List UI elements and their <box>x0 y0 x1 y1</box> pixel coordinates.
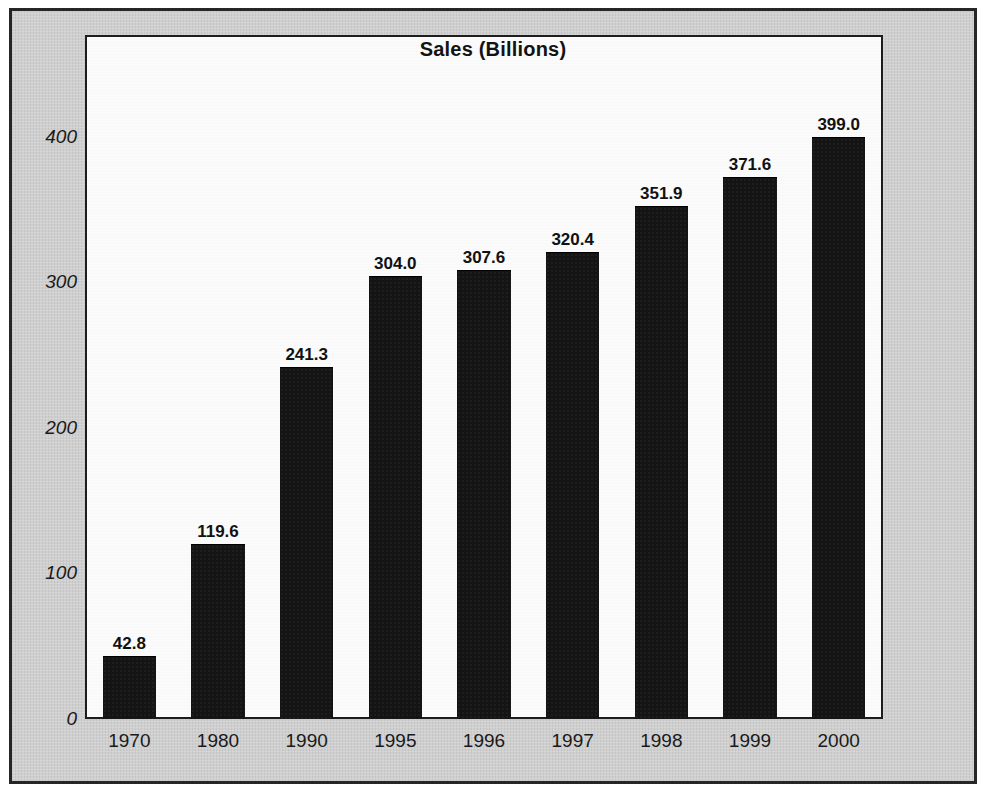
y-axis-tick-label: 400 <box>7 127 77 146</box>
bar <box>546 252 599 719</box>
bar <box>635 206 688 719</box>
x-axis-tick-label: 1970 <box>85 731 174 750</box>
x-axis-tick-label: 1980 <box>174 731 263 750</box>
bar <box>369 276 422 719</box>
bar-value-label: 241.3 <box>266 346 347 363</box>
bar <box>457 270 510 719</box>
y-axis-tick-label: 0 <box>7 709 77 728</box>
bar-slot: 241.3 <box>280 35 333 719</box>
x-axis-tick-label: 1990 <box>262 731 351 750</box>
x-axis-tick-label: 1996 <box>440 731 529 750</box>
chart-title: Sales (Billions) <box>0 38 986 61</box>
bar-slot: 42.8 <box>103 35 156 719</box>
bar-series: 42.8119.6241.3304.0307.6320.4351.9371.63… <box>85 35 883 719</box>
bar-value-label: 304.0 <box>355 255 436 272</box>
bar <box>191 544 244 719</box>
bar-value-label: 399.0 <box>798 116 879 133</box>
x-axis-tick-label: 1998 <box>617 731 706 750</box>
x-axis: 197019801990199519961997199819992000 <box>85 731 883 761</box>
x-axis-tick-label: 2000 <box>794 731 883 750</box>
bar-slot: 371.6 <box>723 35 776 719</box>
bar-slot: 399.0 <box>812 35 865 719</box>
x-axis-tick-label: 1995 <box>351 731 440 750</box>
chart-page: Sales (Billions) 4003002001000 42.8119.6… <box>0 0 986 792</box>
bar-value-label: 42.8 <box>89 635 170 652</box>
bar-value-label: 320.4 <box>532 231 613 248</box>
bar-slot: 119.6 <box>191 35 244 719</box>
y-axis-tick-label: 100 <box>7 563 77 582</box>
bar-value-label: 351.9 <box>621 185 702 202</box>
bar-value-label: 371.6 <box>709 156 790 173</box>
bar-slot: 304.0 <box>369 35 422 719</box>
bar-value-label: 119.6 <box>177 523 258 540</box>
bar-slot: 351.9 <box>635 35 688 719</box>
x-axis-tick-label: 1999 <box>706 731 795 750</box>
bar-slot: 320.4 <box>546 35 599 719</box>
bar <box>280 367 333 719</box>
bar <box>723 177 776 719</box>
bar-slot: 307.6 <box>457 35 510 719</box>
y-axis-tick-label: 200 <box>7 418 77 437</box>
bar <box>812 137 865 719</box>
x-axis-tick-label: 1997 <box>528 731 617 750</box>
y-axis-tick-label: 300 <box>7 272 77 291</box>
bar-value-label: 307.6 <box>443 249 524 266</box>
bar <box>103 656 156 719</box>
